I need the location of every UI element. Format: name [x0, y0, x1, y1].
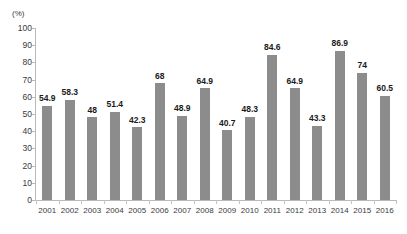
bar[interactable] [357, 73, 367, 200]
bar[interactable] [155, 83, 165, 200]
x-tick-label-2012: 2012 [286, 206, 304, 215]
bar[interactable] [290, 88, 300, 200]
bar-group: 58.3 [59, 28, 82, 200]
y-tick-label-10: 10 [0, 178, 32, 188]
y-tick-label-0: 0 [0, 195, 32, 205]
bar[interactable] [110, 112, 120, 200]
y-tick-label-50: 50 [0, 109, 32, 119]
bar-chart: (%) 0102030405060708090100 54.958.34851.… [0, 0, 407, 234]
bar[interactable] [335, 51, 345, 200]
bar-value-label: 74 [358, 61, 367, 70]
x-tick-label-2016: 2016 [376, 206, 394, 215]
bar-value-label: 48 [88, 106, 97, 115]
bar[interactable] [245, 117, 255, 200]
bar[interactable] [267, 55, 277, 201]
x-tickmark [351, 200, 352, 204]
bar-group: 86.9 [329, 28, 352, 200]
x-tickmark [81, 200, 82, 204]
bar[interactable] [42, 106, 52, 200]
bar[interactable] [200, 88, 210, 200]
x-tickmark [216, 200, 217, 204]
bar-value-label: 60.5 [376, 84, 393, 93]
x-tickmark [261, 200, 262, 204]
x-tickmark [396, 200, 397, 204]
bar[interactable] [87, 117, 97, 200]
x-tick-label-2013: 2013 [308, 206, 326, 215]
x-tick-label-2015: 2015 [353, 206, 371, 215]
y-tick-label-60: 60 [0, 92, 32, 102]
bars-layer: 54.958.34851.442.36848.964.940.748.384.6… [36, 28, 396, 200]
bar-group: 43.3 [306, 28, 329, 200]
x-tickmark [374, 200, 375, 204]
bar[interactable] [65, 100, 75, 200]
bar-group: 60.5 [374, 28, 397, 200]
bar-group: 84.6 [261, 28, 284, 200]
x-tick-label-2004: 2004 [106, 206, 124, 215]
x-tickmark [171, 200, 172, 204]
bar-group: 74 [351, 28, 374, 200]
bar-value-label: 43.3 [309, 114, 326, 123]
bar-group: 64.9 [284, 28, 307, 200]
bar-value-label: 86.9 [331, 39, 348, 48]
bar[interactable] [312, 126, 322, 200]
bar[interactable] [222, 130, 232, 200]
bar-value-label: 48.3 [241, 105, 258, 114]
bar[interactable] [177, 116, 187, 200]
bar-value-label: 64.9 [286, 77, 303, 86]
x-tick-label-2008: 2008 [196, 206, 214, 215]
bar-group: 42.3 [126, 28, 149, 200]
bar-value-label: 42.3 [129, 116, 146, 125]
x-tick-label-2006: 2006 [151, 206, 169, 215]
bar-group: 40.7 [216, 28, 239, 200]
x-tick-label-2014: 2014 [331, 206, 349, 215]
x-tick-label-2001: 2001 [38, 206, 56, 215]
bar-value-label: 48.9 [174, 104, 191, 113]
bar-value-label: 54.9 [39, 94, 56, 103]
bar[interactable] [380, 96, 390, 200]
bar-group: 51.4 [104, 28, 127, 200]
x-tick-label-2009: 2009 [218, 206, 236, 215]
x-tickmark [104, 200, 105, 204]
x-tick-label-2003: 2003 [83, 206, 101, 215]
bar-value-label: 84.6 [264, 43, 281, 52]
y-tick-label-40: 40 [0, 126, 32, 136]
y-tick-label-90: 90 [0, 40, 32, 50]
bar-group: 68 [149, 28, 172, 200]
bar-value-label: 68 [155, 72, 164, 81]
y-tick-label-80: 80 [0, 57, 32, 67]
x-tick-label-2011: 2011 [264, 206, 281, 215]
y-tick-label-70: 70 [0, 75, 32, 85]
bar-group: 48 [81, 28, 104, 200]
y-tick-label-20: 20 [0, 161, 32, 171]
x-tick-label-2007: 2007 [173, 206, 191, 215]
bar-group: 48.3 [239, 28, 262, 200]
bar-value-label: 58.3 [61, 88, 78, 97]
x-tickmark [59, 200, 60, 204]
y-tick-label-100: 100 [0, 23, 32, 33]
x-tickmark [284, 200, 285, 204]
x-axis-labels: 2001200220032004200520062007200820092010… [36, 206, 396, 222]
x-tickmark [149, 200, 150, 204]
y-axis-unit-label: (%) [12, 9, 24, 18]
bar-group: 54.9 [36, 28, 59, 200]
x-tickmark [329, 200, 330, 204]
y-tick-label-30: 30 [0, 143, 32, 153]
bar-value-label: 64.9 [196, 77, 213, 86]
bar[interactable] [132, 127, 142, 200]
x-tickmark [239, 200, 240, 204]
bar-value-label: 51.4 [106, 100, 123, 109]
x-tickmark [194, 200, 195, 204]
x-tickmark [36, 200, 37, 204]
x-tick-label-2010: 2010 [241, 206, 259, 215]
x-tickmark [306, 200, 307, 204]
bar-value-label: 40.7 [219, 119, 236, 128]
x-tickmark [126, 200, 127, 204]
x-tick-label-2005: 2005 [128, 206, 146, 215]
bar-group: 64.9 [194, 28, 217, 200]
bar-group: 48.9 [171, 28, 194, 200]
x-tick-label-2002: 2002 [61, 206, 79, 215]
